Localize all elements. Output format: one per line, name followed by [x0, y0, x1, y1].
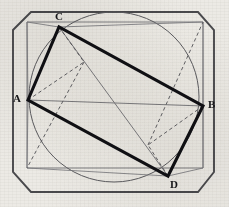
vertex-label-A: A [13, 93, 21, 104]
connector-D-to-corner-br [168, 168, 203, 176]
connector-C-to-corner-tl [27, 22, 59, 27]
vertex-label-D: D [170, 179, 178, 190]
dashed-P2-to-corner-tr [148, 22, 203, 145]
geometry-canvas [0, 0, 229, 207]
diagonal-A-B [28, 100, 203, 106]
vertex-label-C: C [55, 11, 63, 22]
dashed-construction-lines [27, 22, 203, 176]
thin-connectors [27, 22, 203, 176]
geometry-figure: A B C D [0, 0, 229, 207]
connector-C-to-corner-tr [59, 22, 203, 27]
vertex-label-B: B [208, 99, 215, 110]
connector-D-to-corner-bl [27, 168, 168, 176]
